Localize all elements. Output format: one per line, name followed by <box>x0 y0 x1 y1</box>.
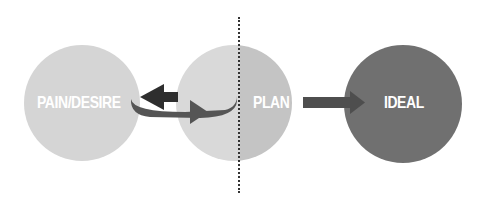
plan-label: PLAN <box>253 93 289 113</box>
plan-to-ideal-arrow-icon <box>303 91 365 114</box>
pain-desire-label: PAIN/DESIRE <box>37 93 121 113</box>
cycle-back-arrow-icon <box>140 84 178 110</box>
ideal-label: IDEAL <box>384 93 424 113</box>
